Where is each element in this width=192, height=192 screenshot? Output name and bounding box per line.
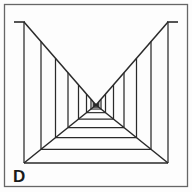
perspective-corridor-drawing: D bbox=[0, 0, 192, 192]
figure-panel: D bbox=[0, 0, 192, 192]
panel-letter-label: D bbox=[13, 167, 25, 186]
